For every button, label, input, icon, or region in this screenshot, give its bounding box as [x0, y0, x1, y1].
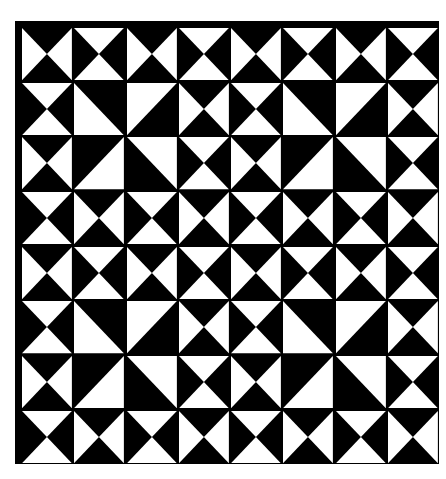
pattern-tile-lr	[22, 137, 72, 189]
pattern-tile-lr	[74, 411, 124, 463]
quilt-pattern-frame	[15, 21, 439, 464]
pattern-tile-tb	[231, 192, 281, 244]
pattern-tile-br	[283, 356, 333, 408]
pattern-tile-lr	[283, 411, 333, 463]
pattern-tile-lr	[179, 192, 229, 244]
pattern-tile-bl	[283, 301, 333, 353]
pattern-tile-lr	[127, 28, 177, 80]
pattern-tile-lr	[283, 192, 333, 244]
pattern-tile-bl	[74, 83, 124, 135]
pattern-tile-tb	[22, 192, 72, 244]
pattern-tile-tb	[74, 28, 124, 80]
pattern-tile-tb	[74, 247, 124, 299]
pattern-tile-tb	[22, 301, 72, 353]
pattern-tile-lr	[336, 247, 386, 299]
pattern-tile-tb	[22, 83, 72, 135]
pattern-tile-tb	[231, 301, 281, 353]
pattern-tile-lr	[179, 301, 229, 353]
pattern-tile-tb	[388, 247, 438, 299]
pattern-tile-tb	[179, 137, 229, 189]
pattern-tile-tr	[127, 356, 177, 408]
pattern-tile-tl	[336, 83, 386, 135]
pattern-tile-lr	[388, 83, 438, 135]
pattern-tile-tb	[388, 137, 438, 189]
pattern-tile-tb	[388, 28, 438, 80]
pattern-tile-lr	[22, 356, 72, 408]
pattern-tile-lr	[22, 28, 72, 80]
pattern-tile-tb	[231, 83, 281, 135]
quilt-pattern-grid	[18, 24, 436, 461]
pattern-tile-tb	[22, 411, 72, 463]
pattern-tile-lr	[388, 301, 438, 353]
pattern-tile-tr	[127, 137, 177, 189]
pattern-tile-br	[74, 137, 124, 189]
pattern-tile-tb	[127, 411, 177, 463]
pattern-tile-br	[74, 356, 124, 408]
pattern-tile-tl	[336, 301, 386, 353]
pattern-tile-lr	[388, 192, 438, 244]
pattern-tile-lr	[231, 28, 281, 80]
pattern-tile-lr	[231, 356, 281, 408]
pattern-tile-tl	[127, 301, 177, 353]
pattern-tile-tb	[231, 411, 281, 463]
pattern-tile-tb	[179, 28, 229, 80]
pattern-tile-tr	[336, 137, 386, 189]
pattern-tile-bl	[74, 301, 124, 353]
pattern-tile-tb	[336, 192, 386, 244]
pattern-tile-tb	[283, 247, 333, 299]
pattern-tile-lr	[22, 247, 72, 299]
pattern-tile-lr	[179, 411, 229, 463]
pattern-tile-tb	[179, 356, 229, 408]
pattern-tile-tb	[127, 192, 177, 244]
pattern-tile-lr	[336, 28, 386, 80]
pattern-tile-lr	[179, 83, 229, 135]
pattern-tile-lr	[231, 137, 281, 189]
pattern-tile-lr	[127, 247, 177, 299]
pattern-tile-tb	[388, 356, 438, 408]
pattern-tile-lr	[74, 192, 124, 244]
pattern-tile-tb	[179, 247, 229, 299]
pattern-tile-br	[283, 137, 333, 189]
pattern-tile-tb	[336, 411, 386, 463]
pattern-tile-bl	[283, 83, 333, 135]
pattern-tile-lr	[231, 247, 281, 299]
pattern-tile-lr	[388, 411, 438, 463]
pattern-tile-tl	[127, 83, 177, 135]
pattern-tile-tr	[336, 356, 386, 408]
pattern-tile-tb	[283, 28, 333, 80]
